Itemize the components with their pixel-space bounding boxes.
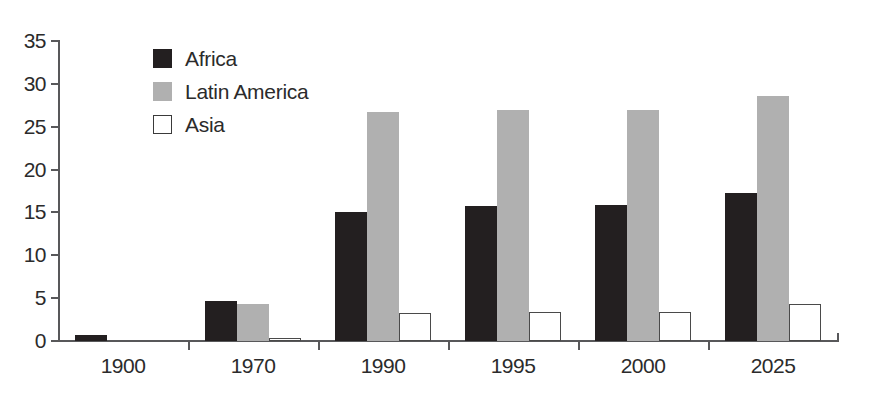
bar-asia-1970: [269, 338, 301, 341]
bar-latin-america-1990: [367, 112, 399, 341]
bar-latin-america-1970: [237, 304, 269, 341]
bar-asia-1995: [529, 312, 561, 341]
bar-africa-1970: [205, 301, 237, 341]
x-axis-tick: [708, 342, 710, 350]
x-axis-tick: [448, 342, 450, 350]
y-axis-tick-label: 0: [2, 330, 46, 351]
y-axis-tick: [51, 40, 58, 42]
x-axis-tick-label: 2025: [713, 355, 833, 376]
y-axis-tick: [51, 169, 58, 171]
bar-chart: 05101520253035 190019701990199520002025 …: [0, 0, 874, 396]
legend-label: Asia: [185, 114, 225, 135]
bar-africa-1995: [465, 206, 497, 341]
bar-africa-2000: [595, 205, 627, 341]
y-axis-tick: [51, 340, 58, 342]
y-axis-tick-label: 5: [2, 287, 46, 308]
x-axis-tick-label: 2000: [583, 355, 703, 376]
bar-asia-2025: [789, 304, 821, 341]
bar-africa-1900: [75, 335, 107, 341]
bar-africa-2025: [725, 193, 757, 341]
legend-item-latin-america: Latin America: [153, 75, 308, 108]
legend-swatch-icon: [153, 49, 172, 68]
bar-asia-1990: [399, 313, 431, 341]
chart-legend: AfricaLatin AmericaAsia: [153, 42, 308, 141]
legend-swatch-icon: [153, 82, 172, 101]
x-axis-tick: [318, 342, 320, 350]
legend-swatch-icon: [153, 115, 172, 134]
y-axis-tick-label: 20: [2, 159, 46, 180]
y-axis-tick: [51, 126, 58, 128]
x-axis-tick-label: 1995: [453, 355, 573, 376]
bar-africa-1990: [335, 212, 367, 341]
y-axis-tick-label: 35: [2, 30, 46, 51]
y-axis-tick: [51, 254, 58, 256]
x-axis-tick-label: 1990: [323, 355, 443, 376]
y-axis-tick-label: 10: [2, 244, 46, 265]
bar-asia-2000: [659, 312, 691, 341]
x-axis-tick: [578, 342, 580, 350]
bar-latin-america-2025: [757, 96, 789, 341]
legend-item-asia: Asia: [153, 108, 308, 141]
bar-latin-america-2000: [627, 110, 659, 341]
x-axis-tick-label: 1900: [63, 355, 183, 376]
y-axis-tick: [51, 297, 58, 299]
y-axis-tick-label: 25: [2, 116, 46, 137]
y-axis-tick-label: 30: [2, 73, 46, 94]
legend-label: Latin America: [185, 81, 308, 102]
x-axis-tick: [188, 342, 190, 350]
x-axis-tick-label: 1970: [193, 355, 313, 376]
y-axis-tick: [51, 83, 58, 85]
bar-latin-america-1995: [497, 110, 529, 341]
legend-item-africa: Africa: [153, 42, 308, 75]
legend-label: Africa: [185, 48, 237, 69]
y-axis-tick-label: 15: [2, 201, 46, 222]
y-axis-tick: [51, 211, 58, 213]
